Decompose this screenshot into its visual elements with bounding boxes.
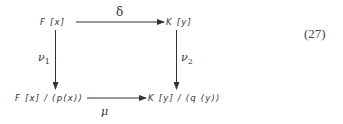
equation-number: (27): [304, 27, 326, 41]
node-top-left: F [x]: [40, 17, 65, 27]
node-bottom-right: K [y] / (q (y)): [148, 93, 221, 103]
node-bottom-left: F [x] / (p(x)): [15, 93, 83, 103]
arrow-right-label: ν2: [181, 52, 193, 68]
arrow-left-label: ν1: [38, 52, 50, 68]
arrow-right-label-sub: 2: [188, 57, 193, 66]
arrow-left-label-sub: 1: [45, 57, 50, 66]
arrow-right-label-base: ν: [181, 51, 188, 64]
arrow-left-label-base: ν: [38, 51, 45, 64]
arrow-bottom-label: μ: [101, 106, 108, 118]
node-top-right: K [y]: [166, 17, 192, 27]
arrow-top-label: δ: [116, 6, 123, 18]
